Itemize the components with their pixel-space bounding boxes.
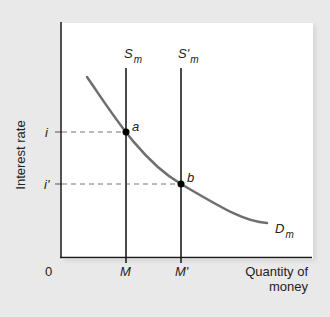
y-tick-label-iprime: i'	[44, 178, 49, 191]
point-b-label: b	[187, 171, 194, 184]
x-axis-label-line2: money	[245, 279, 308, 294]
origin-label: 0	[45, 265, 52, 278]
y-axis-label: Interest rate	[13, 120, 28, 189]
point-a-marker	[123, 129, 130, 136]
x-tick-label-mprime: M'	[175, 265, 188, 278]
smprime-label-main: S'	[178, 46, 189, 61]
sm-label-sub: m	[134, 54, 142, 65]
smprime-label: S'm	[178, 47, 199, 60]
dm-label-sub: m	[285, 229, 293, 240]
point-a-label: a	[132, 120, 139, 133]
y-tick-label-i: i	[45, 126, 48, 139]
x-axis-label: Quantity of money	[245, 264, 308, 294]
demand-curve-dm	[87, 77, 267, 223]
dm-label-main: D	[275, 221, 284, 236]
sm-label-main: S	[124, 46, 133, 61]
dm-label: Dm	[275, 222, 294, 235]
point-b-marker	[178, 181, 185, 188]
chart-figure: Interest rate i i' Sm S'm Dm a b 0 M M' …	[0, 0, 330, 317]
sm-label: Sm	[124, 47, 142, 60]
x-tick-label-m: M	[120, 265, 131, 278]
smprime-label-sub: m	[190, 54, 198, 65]
x-axis-label-line1: Quantity of	[245, 264, 308, 279]
